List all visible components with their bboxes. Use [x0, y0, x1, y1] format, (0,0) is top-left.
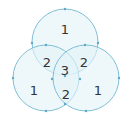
region-label-right-only: 1	[94, 83, 102, 98]
region-label-top-only: 1	[61, 22, 69, 37]
region-label-left-right: 2	[62, 87, 70, 102]
point-dot	[64, 103, 66, 105]
point-dot	[45, 44, 47, 46]
region-label-left-only: 1	[30, 83, 38, 98]
point-dot	[51, 78, 53, 80]
point-dot	[64, 8, 66, 10]
region-label-top-left: 2	[43, 55, 51, 70]
region-label-top-right: 2	[80, 55, 88, 70]
point-dot	[84, 44, 86, 46]
point-dot	[45, 110, 47, 112]
region-label-center: 3	[61, 63, 69, 78]
point-dot	[118, 77, 120, 79]
point-dot	[85, 110, 87, 112]
point-dot	[97, 42, 99, 44]
point-dot	[79, 78, 81, 80]
point-dot	[31, 42, 33, 44]
venn-diagram: 1223121	[0, 0, 128, 120]
point-dot	[12, 77, 14, 79]
